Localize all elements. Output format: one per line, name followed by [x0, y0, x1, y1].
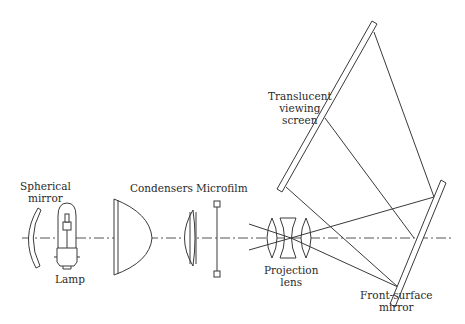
microfilm-shape	[214, 201, 220, 277]
front-mirror-label: Front-surface mirror	[360, 289, 433, 313]
condenser-lens-1	[114, 199, 152, 275]
microfilm-label: Microfilm	[196, 182, 248, 194]
spherical-mirror-shape	[28, 208, 41, 268]
projection-lens-shape	[267, 218, 311, 258]
ray-to-mirror-top	[291, 197, 434, 238]
ray-mirror-to-screen-mid	[325, 118, 414, 238]
spherical-mirror-label: Spherical mirror	[20, 180, 71, 204]
lamp-shape	[54, 203, 80, 269]
screen-label: Translucent viewing screen	[268, 90, 332, 126]
front-surface-mirror-shape	[390, 180, 446, 307]
ray-mirror-to-screen-top	[374, 32, 434, 197]
projection-lens-label: Projection lens	[264, 264, 318, 288]
lamp-label: Lamp	[55, 273, 85, 285]
condensers-label: Condensers	[130, 182, 193, 194]
